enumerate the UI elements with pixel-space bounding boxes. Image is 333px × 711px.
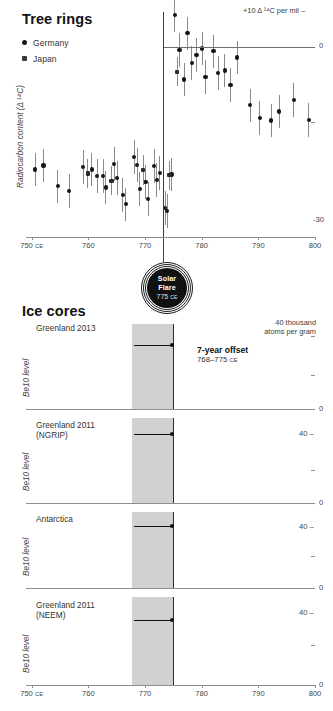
tree-ring-data-point [57, 0, 58, 1]
x-axis-tick-label: 770 [129, 689, 161, 698]
ice-core-panel-label: Greenland 2011(NGRIP) [36, 420, 95, 440]
tree-ring-data-point [202, 0, 203, 1]
data-marker [104, 185, 108, 189]
x-axis-tick [32, 237, 33, 240]
offset-highlight-band [132, 512, 173, 588]
panel-mid-tick [311, 470, 315, 471]
tree-rings-scatter-plot [0, 0, 333, 245]
tree-ring-data-point [43, 0, 44, 1]
x-axis-tick [145, 237, 146, 240]
x-axis-tick-label: 800 [299, 689, 331, 698]
data-marker [33, 167, 37, 171]
offset-highlight-band [132, 418, 173, 503]
tree-ring-data-point [83, 0, 84, 1]
tree-rings-min-label: -30 [313, 215, 324, 224]
year-775-marker-line [173, 512, 174, 588]
tree-ring-data-point [114, 0, 115, 1]
tree-ring-data-point [230, 0, 231, 1]
ice-core-y-axis-label: Be10 level [22, 453, 31, 491]
x-axis-tick-label: 780 [186, 241, 218, 250]
data-marker [41, 163, 45, 167]
data-marker [90, 167, 94, 171]
badge-year: 775 CE [157, 292, 178, 302]
tree-rings-zero-line [163, 47, 315, 48]
tree-ring-data-point [97, 0, 98, 1]
data-marker [141, 168, 145, 172]
x-axis-tick-label: 790 [242, 241, 274, 250]
data-marker [165, 209, 169, 213]
tree-ring-data-point [293, 0, 294, 1]
x-axis-tick [258, 237, 259, 240]
data-marker [115, 176, 119, 180]
tree-ring-data-point [196, 0, 197, 1]
tree-ring-data-point [134, 0, 135, 1]
panel-forty-label: 40 – [299, 608, 314, 617]
tree-ring-data-point [167, 0, 168, 1]
badge-core: Solar Flare 775 CE [147, 268, 187, 308]
data-marker [211, 49, 215, 53]
data-marker [146, 197, 150, 201]
tree-ring-data-point [174, 0, 175, 1]
panel-zero-label: 0 [319, 680, 323, 689]
year-775-marker-line [173, 418, 174, 503]
tree-ring-data-point [271, 0, 272, 1]
x-axis-tick-label: 750 CE [16, 241, 48, 250]
offset-range: 768–775 CE [197, 355, 248, 364]
x-axis-tick [88, 237, 89, 240]
panel-zero-label: 0 [319, 404, 323, 413]
tree-ring-data-point [169, 0, 170, 1]
data-marker [235, 55, 239, 59]
tree-ring-data-point [191, 0, 192, 1]
data-marker [223, 68, 227, 72]
ice-core-panel-label: Greenland 2011(NEEM) [36, 600, 95, 620]
tree-ring-data-point [187, 0, 188, 1]
tree-ring-data-point [122, 0, 123, 1]
x-axis-tick-label: 760 [72, 689, 104, 698]
x-axis-tick [88, 685, 89, 688]
panel-forty-label: 40 – [299, 429, 314, 438]
solar-flare-badge: Solar Flare 775 CE [141, 262, 193, 314]
x-axis-tick [202, 237, 203, 240]
offset-highlight-band [132, 324, 173, 409]
offset-headline: 7-year offset [197, 345, 248, 355]
badge-line-1: Solar [158, 274, 176, 283]
data-marker [248, 103, 252, 107]
data-marker [203, 75, 207, 79]
data-marker [86, 171, 90, 175]
data-marker [269, 118, 273, 122]
tree-ring-data-point [250, 0, 251, 1]
data-marker [228, 83, 232, 87]
data-marker [81, 165, 85, 169]
tree-ring-data-point [224, 0, 225, 1]
tree-rings-zero-label: 0 [319, 41, 323, 50]
tree-ring-data-point [159, 0, 160, 1]
x-axis-tick [202, 685, 203, 688]
data-marker [258, 116, 262, 120]
tree-ring-data-point [213, 0, 214, 1]
tree-ring-data-point [218, 0, 219, 1]
ice-cores-unit-label: 40 thousand atoms per gram [238, 318, 316, 336]
panel-mid-tick [311, 556, 315, 557]
panel-baseline [26, 503, 315, 504]
tree-ring-data-point [179, 0, 180, 1]
tree-ring-data-point [143, 0, 144, 1]
offset-annotation: 7-year offset 768–775 CE [197, 345, 248, 364]
ice-core-y-axis-label: Be10 level [22, 635, 31, 673]
infographic-root: Tree rings Germany Japan Radiocarbon con… [0, 0, 333, 711]
offset-arrow [134, 434, 173, 435]
x-axis-tick [258, 685, 259, 688]
ice-cores-title: Ice cores [22, 303, 86, 319]
ice-core-y-axis-label: Be10 level [22, 538, 31, 576]
data-marker [109, 179, 113, 183]
x-axis-tick [145, 685, 146, 688]
data-marker [194, 53, 198, 57]
badge-line-2: Flare [158, 283, 176, 292]
panel-zero-label: 0 [319, 498, 323, 507]
x-axis-tick [32, 685, 33, 688]
tree-ring-data-point [117, 0, 118, 1]
tree-ring-data-point [103, 0, 104, 1]
panel-mid-tick [311, 645, 315, 646]
x-axis-tick-label: 770 [129, 241, 161, 250]
data-marker [277, 109, 281, 113]
tree-ring-data-point [91, 0, 92, 1]
